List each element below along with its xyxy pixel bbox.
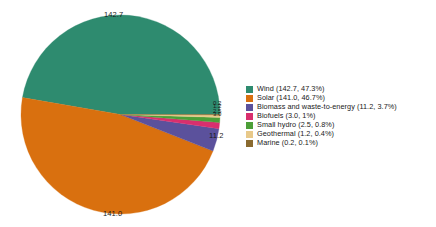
- slice-value-label-solar: 141.0: [103, 209, 122, 218]
- pie-svg: [0, 0, 240, 227]
- legend-swatch-icon: [246, 86, 253, 93]
- legend-swatch-icon: [246, 113, 253, 120]
- legend-swatch-icon: [246, 131, 253, 138]
- legend-swatch-icon: [246, 104, 253, 111]
- legend-item-label: Marine (0.2, 0.1%): [257, 139, 318, 148]
- legend-swatch-icon: [246, 140, 253, 147]
- legend-swatch-icon: [246, 122, 253, 129]
- legend-item[interactable]: Marine (0.2, 0.1%): [246, 139, 436, 148]
- slice-value-label-cluster: 3.0 2.5 1.2 0.2: [213, 99, 237, 123]
- chart-legend: Wind (142.7, 47.3%)Solar (141.0, 46.7%)B…: [246, 85, 436, 148]
- slice-value-label-wind: 142.7: [104, 10, 123, 19]
- pie-slice-group: [21, 15, 220, 214]
- slice-value-label-marine: 0.2: [213, 100, 221, 106]
- legend-swatch-icon: [246, 95, 253, 102]
- pie-plot-area: 142.7 141.0 11.2 3.0 2.5 1.2 0.2: [0, 0, 240, 227]
- pie-chart: 142.7 141.0 11.2 3.0 2.5 1.2 0.2 Wind (1…: [0, 0, 436, 227]
- pie-slice: [22, 15, 220, 115]
- slice-value-label-biomass: 11.2: [209, 131, 223, 140]
